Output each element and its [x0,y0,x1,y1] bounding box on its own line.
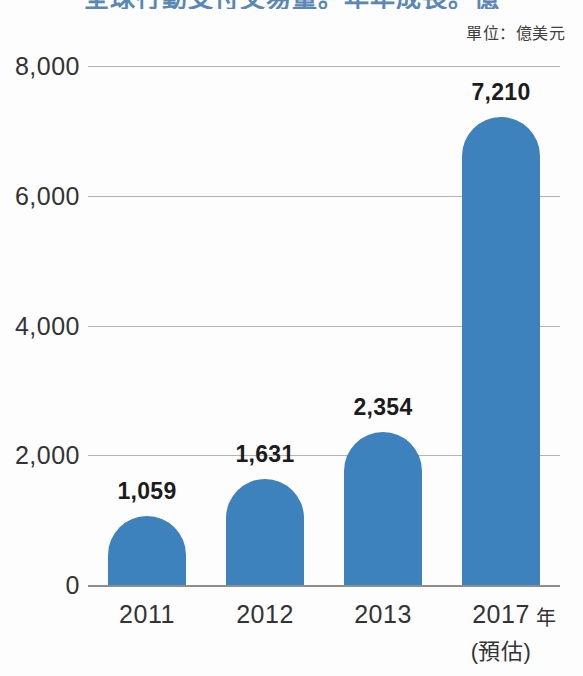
y-axis-tick-label: 4,000 [0,311,80,340]
gridline [88,66,560,67]
axis-baseline [88,585,560,587]
x-axis-tick-year: 2013 [354,600,412,628]
bar-value-label: 1,631 [195,441,335,468]
x-axis-tick-label: 2017(預估) [431,600,571,665]
x-axis-tick-sublabel: (預估) [431,633,571,665]
bar-value-label: 1,059 [77,478,217,505]
bar[interactable] [226,479,304,585]
bar[interactable] [108,516,186,585]
x-axis-tick-year: 2011 [119,600,175,628]
bar-value-label: 7,210 [431,79,571,106]
y-axis-tick-label: 0 [0,571,80,600]
bar[interactable] [462,117,540,585]
y-axis-tick-label: 6,000 [0,181,80,210]
bar[interactable] [344,432,422,585]
y-axis-tick-label: 2,000 [0,441,80,470]
x-axis-tick-year: 2017 [472,600,530,628]
plot-area [88,66,560,585]
bar-value-label: 2,354 [313,394,453,421]
x-axis-tick-year: 2012 [236,600,294,628]
bar-chart: 年 02,0004,0006,0008,0001,05920111,631201… [0,0,583,676]
y-axis-tick-label: 8,000 [0,52,80,81]
